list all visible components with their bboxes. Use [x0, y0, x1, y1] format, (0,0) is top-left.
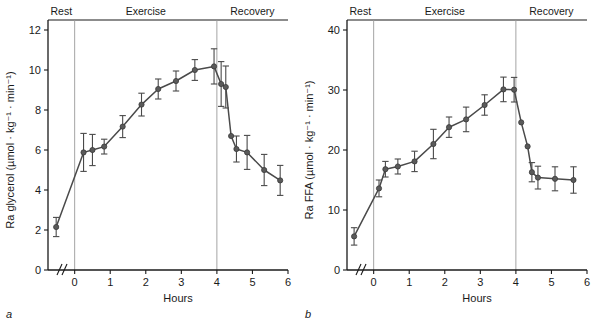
chart-svg-b: RestExerciseRecovery010203040Ra FFA (µmo…	[299, 0, 597, 326]
data-point	[90, 147, 95, 152]
x-axis-title: Hours	[462, 292, 492, 304]
series-ra-ffa	[351, 77, 577, 245]
x-tick-label-2: 2	[442, 276, 448, 288]
y-tick-label-0: 0	[334, 264, 340, 276]
data-point	[395, 164, 400, 169]
data-point	[535, 175, 540, 180]
data-point	[229, 133, 234, 138]
x-tick-label-0: 0	[371, 276, 377, 288]
y-tick-label-2: 2	[35, 224, 41, 236]
phase-label-exercise: Exercise	[425, 5, 465, 17]
chart-panel-b: RestExerciseRecovery010203040Ra FFA (µmo…	[299, 0, 597, 326]
data-point	[262, 167, 267, 172]
data-point	[173, 78, 178, 83]
chart-svg-a: RestExerciseRecovery024681012Ra glycerol…	[0, 0, 298, 326]
data-point	[102, 144, 107, 149]
y-axis-title: Ra FFA (µmol · kg⁻¹ · min⁻¹)	[303, 81, 315, 220]
phase-label-exercise: Exercise	[126, 5, 166, 17]
y-tick-label-6: 6	[35, 144, 41, 156]
data-point	[519, 120, 524, 125]
x-tick-label-4: 4	[214, 276, 220, 288]
data-point	[501, 87, 506, 92]
x-tick-label-1: 1	[406, 276, 412, 288]
data-point	[139, 102, 144, 107]
data-point	[156, 86, 161, 91]
phase-label-rest: Rest	[350, 5, 372, 17]
x-tick-label-3: 3	[178, 276, 184, 288]
x-tick-label-6: 6	[584, 276, 590, 288]
y-tick-label-0: 0	[35, 264, 41, 276]
y-tick-label-12: 12	[29, 24, 41, 36]
data-point	[54, 224, 59, 229]
x-axis-title: Hours	[163, 292, 193, 304]
data-point	[278, 178, 283, 183]
data-point	[446, 125, 451, 130]
figure-container: RestExerciseRecovery024681012Ra glycerol…	[0, 0, 597, 326]
data-point	[552, 176, 557, 181]
x-tick-label-5: 5	[548, 276, 554, 288]
data-point	[464, 117, 469, 122]
series-line	[354, 89, 573, 236]
series-ra-glycerol	[53, 49, 283, 237]
data-point	[383, 167, 388, 172]
data-point	[571, 177, 576, 182]
data-point	[120, 124, 125, 129]
x-tick-label-6: 6	[285, 276, 291, 288]
data-point	[245, 150, 250, 155]
y-tick-label-10: 10	[328, 204, 340, 216]
x-tick-label-5: 5	[249, 276, 255, 288]
panel-letter-a: a	[6, 308, 12, 320]
y-tick-label-40: 40	[328, 24, 340, 36]
y-tick-label-8: 8	[35, 104, 41, 116]
y-tick-label-4: 4	[35, 184, 41, 196]
panel-letter-b: b	[305, 308, 311, 320]
y-tick-label-30: 30	[328, 84, 340, 96]
data-point	[81, 150, 86, 155]
data-point	[211, 64, 216, 69]
data-point	[482, 102, 487, 107]
data-point	[525, 144, 530, 149]
chart-panel-a: RestExerciseRecovery024681012Ra glycerol…	[0, 0, 298, 326]
y-tick-label-10: 10	[29, 64, 41, 76]
x-tick-label-0: 0	[72, 276, 78, 288]
y-axis-title: Ra glycerol (µmol · kg⁻¹ · min⁻¹)	[4, 71, 16, 228]
data-point	[412, 159, 417, 164]
phase-label-recovery: Recovery	[230, 5, 275, 17]
x-tick-label-1: 1	[107, 276, 113, 288]
data-point	[234, 146, 239, 151]
x-tick-label-2: 2	[143, 276, 149, 288]
data-point	[192, 67, 197, 72]
data-point	[431, 141, 436, 146]
data-point	[376, 186, 381, 191]
data-point	[529, 170, 534, 175]
data-point	[219, 81, 224, 86]
data-point	[352, 234, 357, 239]
x-tick-label-4: 4	[513, 276, 519, 288]
y-tick-label-20: 20	[328, 144, 340, 156]
x-tick-label-3: 3	[477, 276, 483, 288]
phase-label-rest: Rest	[51, 5, 73, 17]
data-point	[512, 87, 517, 92]
phase-label-recovery: Recovery	[529, 5, 574, 17]
data-point	[223, 84, 228, 89]
